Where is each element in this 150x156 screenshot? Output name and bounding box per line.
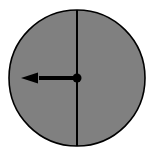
clock-svg [0, 0, 150, 156]
center-hub [73, 74, 82, 83]
clock-figure [0, 0, 150, 156]
